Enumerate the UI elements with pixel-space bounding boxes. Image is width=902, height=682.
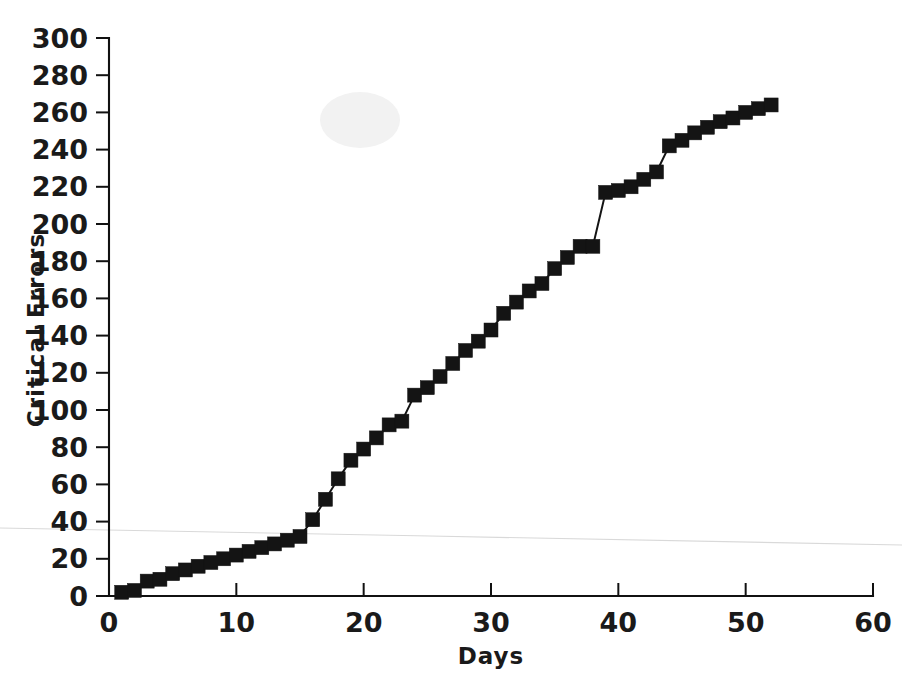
scan-smudge	[320, 92, 400, 148]
data-point-marker	[420, 381, 434, 395]
data-point-marker	[357, 442, 371, 456]
data-point-marker	[497, 306, 511, 320]
data-point-marker	[662, 139, 676, 153]
data-point-marker	[650, 165, 664, 179]
data-point-marker	[229, 548, 243, 562]
x-axis-title: Days	[458, 643, 525, 669]
data-point-marker	[191, 559, 205, 573]
y-tick-label: 40	[50, 506, 88, 537]
x-tick-marks	[109, 583, 873, 596]
data-point-marker	[599, 185, 613, 199]
x-tick-label: 0	[100, 607, 119, 638]
y-tick-label: 280	[32, 60, 88, 91]
data-point-marker	[280, 533, 294, 547]
data-point-marker	[242, 544, 256, 558]
series-line	[122, 105, 771, 592]
data-point-marker	[395, 414, 409, 428]
scan-artifact-line	[0, 528, 902, 545]
data-point-marker	[255, 541, 269, 555]
chart-canvas: 0204060801001201401601802002202402602803…	[0, 0, 902, 682]
y-tick-label: 20	[50, 543, 88, 574]
x-tick-label: 50	[727, 607, 765, 638]
data-point-marker	[764, 98, 778, 112]
chart-figure: 0204060801001201401601802002202402602803…	[0, 0, 902, 682]
y-axis-title: Critical Errors	[23, 233, 49, 427]
y-tick-label: 260	[32, 97, 88, 128]
data-point-marker	[713, 115, 727, 129]
data-point-marker	[268, 537, 282, 551]
data-point-marker	[637, 172, 651, 186]
data-point-marker	[624, 180, 638, 194]
data-point-marker	[688, 126, 702, 140]
data-point-marker	[548, 262, 562, 276]
data-point-marker	[140, 574, 154, 588]
x-tick-label: 60	[854, 607, 892, 638]
data-point-marker	[293, 529, 307, 543]
data-point-marker	[178, 563, 192, 577]
data-point-marker	[344, 453, 358, 467]
data-point-marker	[306, 513, 320, 527]
data-point-marker	[675, 133, 689, 147]
data-point-marker	[318, 492, 332, 506]
data-point-marker	[739, 105, 753, 119]
y-tick-marks	[96, 38, 109, 596]
y-tick-label: 60	[50, 469, 88, 500]
data-point-marker	[459, 343, 473, 357]
data-point-marker	[217, 552, 231, 566]
data-point-marker	[382, 418, 396, 432]
x-tick-label: 30	[472, 607, 510, 638]
data-point-marker	[471, 334, 485, 348]
data-point-marker	[331, 472, 345, 486]
data-point-marker	[509, 295, 523, 309]
data-point-marker	[700, 120, 714, 134]
x-tick-label: 20	[345, 607, 383, 638]
y-tick-label: 0	[69, 581, 88, 612]
y-tick-label: 220	[32, 171, 88, 202]
y-tick-label: 300	[32, 23, 88, 54]
data-point-marker	[433, 370, 447, 384]
data-point-marker	[369, 431, 383, 445]
scan-artifacts	[0, 92, 902, 545]
x-axis: 0102030405060 Days	[100, 583, 892, 669]
data-point-marker	[535, 277, 549, 291]
data-point-marker	[560, 250, 574, 264]
x-tick-labels: 0102030405060	[100, 607, 892, 638]
data-point-marker	[204, 556, 218, 570]
y-tick-label: 240	[32, 134, 88, 165]
data-point-marker	[586, 239, 600, 253]
data-point-marker	[726, 111, 740, 125]
data-point-marker	[751, 102, 765, 116]
data-point-marker	[127, 583, 141, 597]
x-tick-label: 40	[600, 607, 638, 638]
data-point-marker	[446, 357, 460, 371]
data-point-marker	[522, 284, 536, 298]
data-series-group	[115, 98, 778, 599]
series-markers	[115, 98, 778, 599]
data-point-marker	[166, 567, 180, 581]
data-point-marker	[484, 323, 498, 337]
data-point-marker	[573, 239, 587, 253]
y-axis: 0204060801001201401601802002202402602803…	[23, 23, 109, 612]
y-tick-label: 80	[50, 432, 88, 463]
x-tick-label: 10	[218, 607, 256, 638]
data-point-marker	[408, 388, 422, 402]
data-point-marker	[611, 184, 625, 198]
data-point-marker	[115, 585, 129, 599]
data-point-marker	[153, 572, 167, 586]
